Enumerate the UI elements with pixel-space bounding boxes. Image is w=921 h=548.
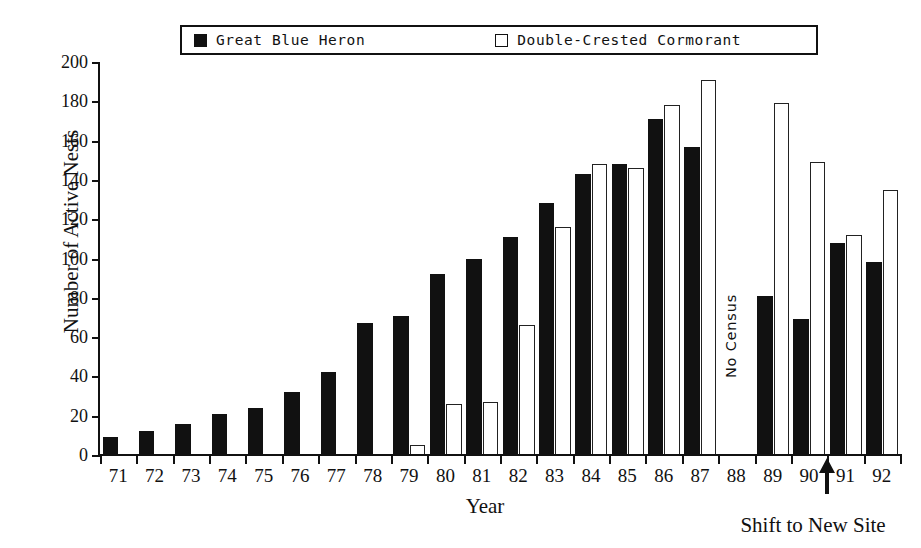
y-tick-mark — [92, 455, 100, 457]
x-tick-label-91: 91 — [825, 465, 865, 487]
bar-cormorant-84 — [592, 164, 608, 455]
bar-group-86 — [645, 62, 681, 455]
x-tick-label-90: 90 — [789, 465, 829, 487]
x-tick-label-80: 80 — [425, 465, 465, 487]
bar-cormorant-83 — [555, 227, 571, 455]
y-tick-mark — [92, 337, 100, 339]
x-tick-label-74: 74 — [207, 465, 247, 487]
bar-group-77 — [318, 62, 354, 455]
bar-group-78 — [355, 62, 391, 455]
y-tick-mark — [92, 101, 100, 103]
bar-cormorant-89 — [774, 103, 790, 455]
x-tick-mark — [609, 455, 611, 464]
bar-group-88 — [718, 62, 754, 455]
y-tick-label: 80 — [32, 288, 88, 308]
chart-legend: Great Blue HeronDouble-Crested Cormorant — [180, 25, 818, 55]
bar-group-82 — [500, 62, 536, 455]
x-tick-mark — [427, 455, 429, 464]
y-tick-mark — [92, 62, 100, 64]
bar-group-81 — [464, 62, 500, 455]
bar-group-74 — [209, 62, 245, 455]
y-tick-label: 200 — [32, 52, 88, 72]
bar-cormorant-87 — [701, 80, 717, 455]
x-tick-mark — [573, 455, 575, 464]
x-tick-mark — [682, 455, 684, 464]
bar-heron-78 — [357, 323, 373, 455]
x-tick-label-88: 88 — [716, 465, 756, 487]
legend-label-cormorant: Double-Crested Cormorant — [517, 33, 741, 48]
y-tick-label: 140 — [32, 170, 88, 190]
y-tick-label: 0 — [32, 445, 88, 465]
bar-heron-86 — [648, 119, 664, 455]
bar-heron-82 — [503, 237, 519, 455]
bar-heron-81 — [466, 259, 482, 456]
x-tick-mark — [755, 455, 757, 464]
x-tick-label-83: 83 — [535, 465, 575, 487]
x-tick-label-85: 85 — [607, 465, 647, 487]
bar-cormorant-91 — [846, 235, 862, 455]
x-tick-label-72: 72 — [135, 465, 175, 487]
legend-entry-heron: Great Blue Heron — [194, 27, 365, 53]
x-tick-label-81: 81 — [462, 465, 502, 487]
x-tick-label-79: 79 — [389, 465, 429, 487]
bar-group-83 — [536, 62, 572, 455]
shift-to-new-site-label: Shift to New Site — [705, 513, 921, 538]
bar-heron-74 — [212, 414, 228, 455]
bar-cormorant-81 — [483, 402, 499, 455]
bar-heron-71 — [103, 437, 119, 455]
bar-group-85 — [609, 62, 645, 455]
bar-heron-84 — [575, 174, 591, 455]
x-tick-mark — [500, 455, 502, 464]
x-tick-mark — [791, 455, 793, 464]
bar-group-75 — [245, 62, 281, 455]
y-tick-mark — [92, 141, 100, 143]
bar-heron-75 — [248, 408, 264, 455]
bar-heron-92 — [866, 262, 882, 455]
y-tick-label: 160 — [32, 131, 88, 151]
bar-heron-90 — [793, 319, 809, 455]
x-tick-mark — [645, 455, 647, 464]
bar-heron-83 — [539, 203, 555, 455]
y-tick-mark — [92, 416, 100, 418]
bar-group-90 — [791, 62, 827, 455]
x-tick-label-73: 73 — [171, 465, 211, 487]
x-tick-label-89: 89 — [753, 465, 793, 487]
y-tick-label: 180 — [32, 91, 88, 111]
x-tick-mark — [282, 455, 284, 464]
x-tick-mark — [209, 455, 211, 464]
no-census-annotation: No Census — [723, 276, 739, 396]
bar-group-79 — [391, 62, 427, 455]
bar-heron-77 — [321, 372, 337, 455]
bar-heron-89 — [757, 296, 773, 455]
y-tick-label: 60 — [32, 327, 88, 347]
legend-entry-cormorant: Double-Crested Cormorant — [495, 27, 741, 53]
bar-cormorant-82 — [519, 325, 535, 455]
x-tick-mark — [100, 455, 102, 464]
bar-group-92 — [864, 62, 900, 455]
bar-heron-72 — [139, 431, 155, 455]
x-tick-label-75: 75 — [244, 465, 284, 487]
legend-label-heron: Great Blue Heron — [216, 33, 365, 48]
x-axis-title: Year — [440, 494, 530, 519]
bar-heron-76 — [284, 392, 300, 455]
bar-cormorant-86 — [664, 105, 680, 455]
x-tick-label-82: 82 — [498, 465, 538, 487]
bar-cormorant-80 — [446, 404, 462, 455]
bar-heron-91 — [830, 243, 846, 455]
x-tick-label-86: 86 — [644, 465, 684, 487]
y-tick-label: 20 — [32, 406, 88, 426]
bar-cormorant-90 — [810, 162, 826, 455]
bar-group-87 — [682, 62, 718, 455]
x-tick-mark — [464, 455, 466, 464]
legend-swatch-cormorant-icon — [495, 34, 508, 47]
y-tick-mark — [92, 376, 100, 378]
bar-heron-80 — [430, 274, 446, 455]
x-tick-mark — [173, 455, 175, 464]
bar-heron-85 — [612, 164, 628, 455]
y-axis-tick-labels: 020406080100120140160180200 — [32, 53, 88, 465]
x-tick-mark — [355, 455, 357, 464]
x-tick-mark — [136, 455, 138, 464]
x-tick-label-84: 84 — [571, 465, 611, 487]
bar-group-80 — [427, 62, 463, 455]
x-tick-mark — [900, 455, 902, 464]
